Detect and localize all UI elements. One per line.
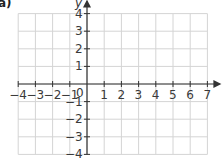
x-axis-arrow-icon: [213, 80, 221, 88]
y-tick-label: −1: [65, 96, 83, 108]
y-axis-arrow-icon: [83, 0, 91, 8]
x-tick-label: 2: [117, 89, 125, 101]
coordinate-grid: [0, 0, 222, 161]
x-tick-label: 5: [169, 89, 177, 101]
x-tick-label: 4: [152, 89, 160, 101]
y-tick-label: −4: [65, 148, 83, 160]
y-axis-label: y: [75, 0, 82, 10]
y-tick-label: 2: [75, 43, 83, 55]
x-tick-label: −3: [26, 89, 44, 101]
x-tick-label: −4: [9, 89, 27, 101]
x-tick-label: 3: [135, 89, 143, 101]
axes: [18, 0, 221, 154]
y-tick-label: −3: [65, 131, 83, 143]
x-tick-label: 6: [186, 89, 194, 101]
x-tick-label: 1: [100, 89, 108, 101]
y-tick-label: 1: [75, 60, 83, 72]
x-tick-label: −2: [44, 89, 62, 101]
y-tick-label: 3: [75, 25, 83, 37]
y-tick-label: −2: [65, 113, 83, 125]
x-tick-label: 7: [203, 89, 211, 101]
